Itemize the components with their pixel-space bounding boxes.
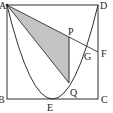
geometry-diagram: A D B C E F G P Q bbox=[0, 0, 113, 113]
label-b: B bbox=[0, 94, 5, 105]
label-c: C bbox=[101, 94, 108, 105]
label-e: E bbox=[47, 102, 53, 113]
label-q: Q bbox=[70, 87, 78, 98]
label-d: D bbox=[100, 0, 107, 11]
label-a: A bbox=[0, 0, 7, 11]
label-p: P bbox=[68, 26, 74, 37]
label-f: F bbox=[101, 48, 107, 59]
label-g: G bbox=[84, 51, 91, 62]
